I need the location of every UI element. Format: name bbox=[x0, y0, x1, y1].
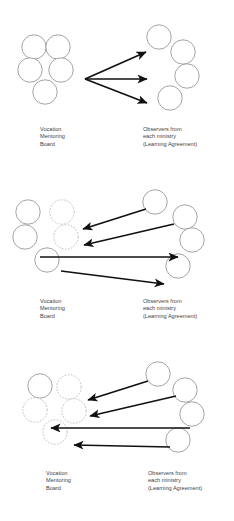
right-group-label-line-1: Observers from bbox=[143, 298, 197, 305]
right-node-1 bbox=[143, 190, 167, 214]
left-node-top-right bbox=[46, 35, 70, 59]
right-node-cluster bbox=[146, 362, 204, 452]
right-node-3 bbox=[180, 402, 204, 426]
arrow-1 bbox=[83, 209, 146, 229]
right-node-2 bbox=[171, 40, 195, 64]
diagram-panel-stage-2: Vocation Mentoring Board Observers from … bbox=[0, 172, 234, 344]
diagram-panel-stage-3: Vocation Mentoring Board Observers from … bbox=[0, 344, 234, 521]
left-group-label-line-3: Board bbox=[40, 141, 65, 148]
left-group-label: Vocation Mentoring Board bbox=[40, 298, 65, 320]
right-group-label: Observers from each ministry (Learning A… bbox=[143, 298, 197, 320]
right-group-label-line-1: Observers from bbox=[148, 470, 202, 477]
right-group-label-line-1: Observers from bbox=[143, 126, 197, 133]
left-node-bottom-center bbox=[43, 420, 67, 444]
arrow-4 bbox=[74, 445, 170, 447]
left-node-cluster bbox=[13, 200, 78, 272]
left-node-middle-left bbox=[18, 58, 42, 82]
left-group-label-line-3: Board bbox=[46, 485, 71, 492]
right-group-label: Observers from each ministry (Learning A… bbox=[143, 126, 197, 148]
right-node-cluster bbox=[147, 25, 199, 110]
arrow-fan-lower bbox=[85, 79, 147, 103]
right-node-3 bbox=[175, 64, 199, 88]
left-node-top-left bbox=[16, 200, 40, 224]
right-group-label-line-3: (Learning Agreement) bbox=[143, 141, 197, 148]
right-node-cluster bbox=[143, 190, 204, 278]
arrow-group bbox=[85, 52, 147, 103]
arrow-1 bbox=[88, 381, 148, 400]
right-group-label-line-2: each ministry bbox=[143, 305, 197, 312]
left-node-middle-right bbox=[49, 58, 73, 82]
left-group-label-line-1: Vocation bbox=[46, 470, 71, 477]
right-node-2 bbox=[173, 205, 197, 229]
left-group-label-line-2: Mentoring bbox=[40, 305, 65, 312]
left-node-bottom-center bbox=[35, 248, 59, 272]
arrow-fan-upper bbox=[85, 52, 146, 79]
left-node-middle-right bbox=[54, 225, 78, 249]
right-node-1 bbox=[147, 25, 171, 49]
panel-1-graphic bbox=[0, 0, 234, 172]
left-group-label: Vocation Mentoring Board bbox=[40, 126, 65, 148]
left-node-cluster bbox=[18, 35, 73, 104]
left-group-label: Vocation Mentoring Board bbox=[46, 470, 71, 492]
left-node-cluster bbox=[23, 374, 86, 444]
right-node-4 bbox=[166, 428, 190, 452]
left-node-top-left bbox=[28, 374, 52, 398]
right-group-label-line-2: each ministry bbox=[143, 133, 197, 140]
left-group-label-line-1: Vocation bbox=[40, 126, 65, 133]
left-node-middle-left bbox=[13, 225, 37, 249]
left-node-bottom-center bbox=[33, 80, 57, 104]
arrow-4 bbox=[61, 271, 164, 284]
left-node-top-left bbox=[22, 35, 46, 59]
left-group-label-line-2: Mentoring bbox=[46, 477, 71, 484]
right-node-2 bbox=[173, 378, 197, 402]
right-node-4 bbox=[158, 86, 182, 110]
diagram-panel-stage-1: Vocation Mentoring Board Observers from … bbox=[0, 0, 234, 172]
right-group-label-line-3: (Learning Agreement) bbox=[143, 313, 197, 320]
left-group-label-line-3: Board bbox=[40, 313, 65, 320]
right-node-3 bbox=[180, 228, 204, 252]
arrow-2 bbox=[90, 396, 176, 416]
left-node-middle-left bbox=[23, 398, 47, 422]
panel-3-graphic bbox=[0, 344, 234, 521]
right-group-label-line-2: each ministry bbox=[148, 477, 202, 484]
left-node-middle-right bbox=[62, 399, 86, 423]
left-group-label-line-1: Vocation bbox=[40, 298, 65, 305]
left-node-top-right bbox=[57, 375, 81, 399]
left-node-top-right bbox=[50, 200, 74, 224]
panel-2-graphic bbox=[0, 172, 234, 344]
left-group-label-line-2: Mentoring bbox=[40, 133, 65, 140]
right-group-label-line-3: (Learning Agreement) bbox=[148, 485, 202, 492]
arrow-2 bbox=[84, 224, 174, 245]
right-node-1 bbox=[146, 362, 170, 386]
right-group-label: Observers from each ministry (Learning A… bbox=[148, 470, 202, 492]
